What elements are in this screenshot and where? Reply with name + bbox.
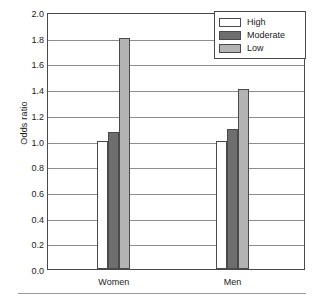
bar-men-low [238, 89, 249, 269]
y-axis-tick-label: 0.0 [2, 266, 44, 276]
legend-item-moderate: Moderate [219, 29, 300, 41]
gridline [48, 194, 304, 195]
y-axis-tick-label: 2.0 [2, 9, 44, 19]
legend-item-high: High [219, 16, 300, 28]
legend-swatch-moderate [219, 31, 241, 40]
gridline [48, 143, 304, 144]
bar-men-high [216, 141, 227, 270]
bar-women-moderate [108, 132, 119, 269]
y-axis-tick-label: 0.2 [2, 240, 44, 250]
y-axis-tick-label: 0.4 [2, 215, 44, 225]
x-axis-tick-label: Women [74, 277, 154, 287]
figure: Odds ratio 2.01.81.61.41.21.00.80.60.40.… [0, 0, 322, 302]
y-axis-tick-label: 1.0 [2, 138, 44, 148]
x-axis-tick-label: Men [192, 277, 272, 287]
bar-men-moderate [227, 129, 238, 269]
y-axis-tick-label: 0.6 [2, 189, 44, 199]
bar-women-high [97, 141, 108, 270]
y-axis-tick-label: 1.2 [2, 112, 44, 122]
legend-swatch-high [219, 18, 241, 27]
legend-label: High [247, 17, 266, 27]
bar-women-low [119, 38, 130, 269]
legend-swatch-low [219, 44, 241, 53]
legend-label: Low [247, 43, 264, 53]
legend: HighModerateLow [214, 11, 306, 59]
bottom-divider [18, 293, 306, 294]
gridline [48, 220, 304, 221]
legend-label: Moderate [247, 30, 285, 40]
y-axis-tick-label: 1.4 [2, 86, 44, 96]
y-axis-tick-label: 0.8 [2, 163, 44, 173]
y-axis-tick-label: 1.8 [2, 35, 44, 45]
gridline [48, 245, 304, 246]
gridline [48, 117, 304, 118]
gridline [48, 168, 304, 169]
gridline [48, 91, 304, 92]
y-axis-tick-label: 1.6 [2, 60, 44, 70]
gridline [48, 65, 304, 66]
legend-item-low: Low [219, 42, 300, 54]
